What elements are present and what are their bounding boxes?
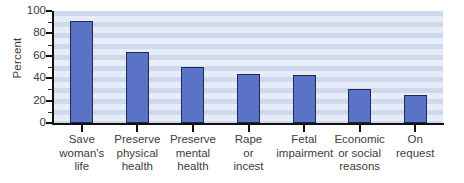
x-axis-label-line: Preserve	[110, 133, 166, 147]
y-tick-label: 20	[18, 95, 46, 107]
x-axis-label-line: Save	[54, 133, 110, 147]
x-tick	[303, 125, 305, 132]
bar	[404, 95, 427, 123]
x-axis-label: Onrequest	[387, 133, 443, 160]
y-tick-label: 0	[18, 117, 46, 129]
x-axis-label-line: Fetal	[276, 133, 332, 147]
y-major-tick	[46, 122, 52, 124]
x-axis-label: Savewoman'slife	[54, 133, 110, 174]
x-axis-label-line: impairment	[276, 147, 332, 161]
x-axis-label-line: mental	[165, 147, 221, 161]
y-major-tick	[46, 55, 52, 57]
y-minor-tick	[48, 22, 52, 23]
x-axis-label-line: or social	[332, 147, 388, 161]
y-major-tick	[46, 100, 52, 102]
bar	[70, 21, 93, 123]
x-tick	[248, 125, 250, 132]
x-axis-label-line: physical	[110, 147, 166, 161]
y-minor-tick	[48, 89, 52, 90]
bar	[348, 89, 371, 123]
x-axis-label-line: health	[165, 160, 221, 174]
x-axis-label-line: Rape	[221, 133, 277, 147]
y-major-tick	[46, 32, 52, 34]
bar	[126, 52, 149, 123]
y-axis-tick-labels: 020406080100	[18, 12, 46, 124]
x-axis-category-labels: Savewoman'slifePreservephysicalhealthPre…	[52, 133, 444, 181]
y-major-tick	[46, 10, 52, 12]
bar-chart-figure: Percent 020406080100 Savewoman'slifePres…	[0, 0, 464, 183]
y-minor-tick	[48, 112, 52, 113]
x-tick	[81, 125, 83, 132]
y-major-tick	[46, 77, 52, 79]
y-tick-label: 100	[18, 5, 46, 17]
x-axis-label: Preservephysicalhealth	[110, 133, 166, 174]
x-axis-label: Rapeorincest	[221, 133, 277, 174]
y-tick-label: 40	[18, 72, 46, 84]
y-minor-tick	[48, 45, 52, 46]
x-tick	[136, 125, 138, 132]
x-axis-label-line: health	[110, 160, 166, 174]
plot-area	[54, 11, 443, 123]
x-axis-label-line: woman's	[54, 147, 110, 161]
x-axis-label: Fetalimpairment	[276, 133, 332, 160]
x-axis-label-line: or	[221, 147, 277, 161]
y-minor-tick	[48, 67, 52, 68]
bar	[237, 74, 260, 123]
x-axis-label-line: reasons	[332, 160, 388, 174]
x-axis-label: Preservementalhealth	[165, 133, 221, 174]
x-tick	[192, 125, 194, 132]
x-axis-label-line: On	[387, 133, 443, 147]
x-axis-label-line: incest	[221, 160, 277, 174]
x-axis-label-line: request	[387, 147, 443, 161]
x-tick	[414, 125, 416, 132]
x-axis-label: Economicor socialreasons	[332, 133, 388, 174]
bar	[181, 67, 204, 123]
bar	[293, 75, 316, 123]
y-tick-label: 80	[18, 28, 46, 40]
x-axis-label-line: Preserve	[165, 133, 221, 147]
x-tick	[359, 125, 361, 132]
x-axis-label-line: Economic	[332, 133, 388, 147]
y-tick-label: 60	[18, 50, 46, 62]
x-axis-label-line: life	[54, 160, 110, 174]
